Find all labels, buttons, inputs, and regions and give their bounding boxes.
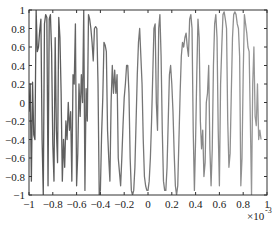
y-tick-label: −0.4 xyxy=(5,134,25,146)
y-tick-label: 0.2 xyxy=(11,78,25,90)
y-tick-label: −1 xyxy=(13,189,25,201)
y-tick-label: 0.8 xyxy=(11,23,25,35)
y-tick-label: −0.8 xyxy=(5,171,25,183)
x-tick-label: −0.8 xyxy=(43,198,63,210)
y-tick-label: 0.4 xyxy=(11,60,25,72)
x-exponent-label: ×10 -3 xyxy=(247,206,272,222)
x-exponent-power: -3 xyxy=(265,206,272,215)
x-tick-label: 0.2 xyxy=(165,198,179,210)
y-tick-label: −0.2 xyxy=(5,115,25,127)
y-tick-label: 0.6 xyxy=(11,41,25,53)
y-tick-label: 0 xyxy=(20,97,26,109)
x-tick-label: −0.4 xyxy=(90,198,110,210)
y-tick-label: −0.6 xyxy=(5,152,25,164)
x-tick-label: −0.2 xyxy=(114,198,134,210)
x-tick-label: 0.8 xyxy=(236,198,250,210)
line-chart: −1−0.8−0.6−0.4−0.200.20.40.60.81 −1−0.8−… xyxy=(0,0,276,233)
x-tick-label: 0.4 xyxy=(189,198,203,210)
x-exponent-base: ×10 xyxy=(247,210,265,222)
x-tick-label: −0.6 xyxy=(67,198,87,210)
y-tick-label: 1 xyxy=(20,4,26,16)
x-tick-label: 0.6 xyxy=(213,198,227,210)
x-tick-label: 0 xyxy=(145,198,151,210)
